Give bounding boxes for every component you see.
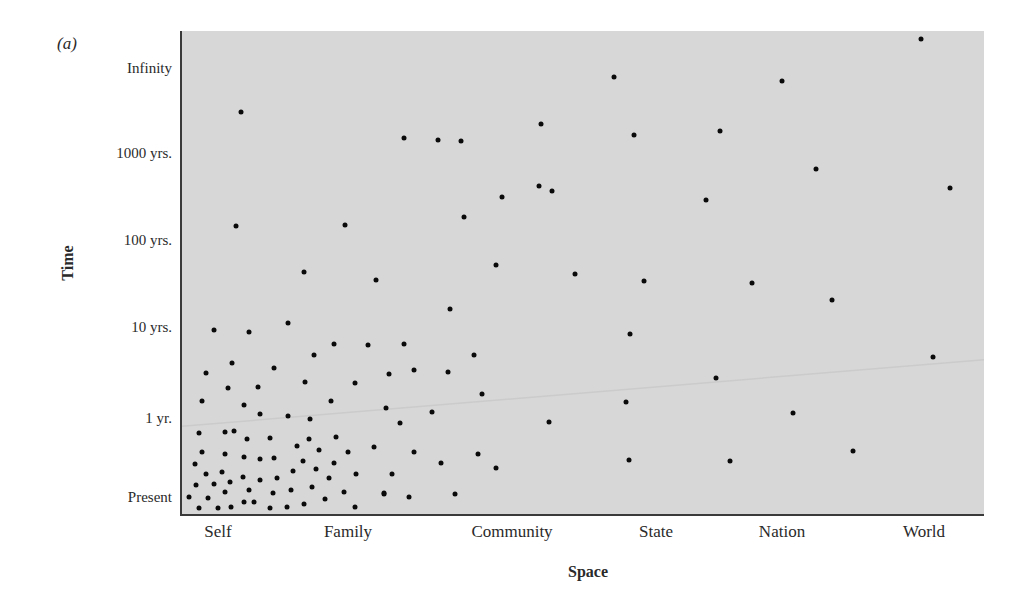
data-point — [252, 499, 257, 504]
y-tick-label: Infinity — [127, 60, 172, 77]
y-tick-label: 10 yrs. — [131, 319, 172, 336]
data-point — [365, 343, 370, 348]
data-point — [537, 184, 542, 189]
data-point — [322, 497, 327, 502]
data-point — [447, 306, 452, 311]
data-point — [642, 278, 647, 283]
data-point — [382, 491, 387, 496]
data-point — [200, 398, 205, 403]
data-point — [219, 469, 224, 474]
data-point — [204, 472, 209, 477]
y-tick-label: 1 yr. — [145, 410, 172, 427]
data-point — [352, 381, 357, 386]
data-point — [231, 428, 236, 433]
data-point — [411, 367, 416, 372]
data-point — [718, 128, 723, 133]
data-point — [538, 122, 543, 127]
data-point — [242, 403, 247, 408]
data-point — [242, 499, 247, 504]
data-point — [387, 372, 392, 377]
data-point — [480, 392, 485, 397]
data-point — [317, 448, 322, 453]
y-tick-label: Present — [128, 489, 172, 506]
data-point — [244, 437, 249, 442]
data-point — [342, 490, 347, 495]
data-point — [780, 78, 785, 83]
data-point — [288, 487, 293, 492]
data-point — [550, 189, 555, 194]
data-point — [312, 353, 317, 358]
data-point — [398, 420, 403, 425]
x-tick-label: Self — [204, 522, 231, 542]
data-point — [947, 185, 952, 190]
data-point — [301, 270, 306, 275]
data-point — [343, 223, 348, 228]
data-point — [851, 449, 856, 454]
data-point — [212, 482, 217, 487]
data-point — [411, 449, 416, 454]
data-point — [257, 477, 262, 482]
data-point — [200, 449, 205, 454]
data-point — [462, 215, 467, 220]
data-point — [301, 502, 306, 507]
data-point — [728, 458, 733, 463]
data-point — [239, 110, 244, 115]
data-point — [612, 75, 617, 80]
data-point — [406, 495, 411, 500]
data-point — [493, 263, 498, 268]
data-point — [268, 435, 273, 440]
plot-area — [180, 31, 984, 516]
x-tick-label: World — [903, 522, 945, 542]
data-point — [814, 166, 819, 171]
data-point — [295, 443, 300, 448]
data-point — [222, 430, 227, 435]
data-point — [234, 224, 239, 229]
data-point — [268, 506, 273, 511]
data-point — [313, 467, 318, 472]
data-point — [383, 405, 388, 410]
data-point — [436, 138, 441, 143]
data-point — [623, 399, 628, 404]
data-point — [222, 490, 227, 495]
data-point — [257, 457, 262, 462]
data-point — [242, 454, 247, 459]
data-point — [475, 452, 480, 457]
panel-label: (a) — [57, 34, 77, 54]
y-tick-label: 1000 yrs. — [116, 145, 172, 162]
data-point — [309, 484, 314, 489]
y-tick-label: 100 yrs. — [124, 232, 172, 249]
data-point — [493, 465, 498, 470]
x-tick-label: State — [639, 522, 673, 542]
data-point — [212, 327, 217, 332]
data-point — [346, 449, 351, 454]
data-point — [373, 278, 378, 283]
data-point — [222, 452, 227, 457]
data-point — [256, 385, 261, 390]
data-point — [193, 483, 198, 488]
data-point — [192, 461, 197, 466]
data-point — [247, 487, 252, 492]
data-point — [919, 37, 924, 42]
data-point — [401, 342, 406, 347]
data-point — [500, 195, 505, 200]
data-point — [354, 472, 359, 477]
data-point — [300, 458, 305, 463]
data-point — [372, 445, 377, 450]
data-point — [329, 398, 334, 403]
data-point — [226, 385, 231, 390]
data-point — [632, 133, 637, 138]
data-point — [452, 491, 457, 496]
data-point — [446, 369, 451, 374]
data-point — [704, 197, 709, 202]
data-point — [227, 479, 232, 484]
data-point — [216, 506, 221, 511]
data-point — [286, 320, 291, 325]
data-point — [240, 475, 245, 480]
data-point — [270, 491, 275, 496]
data-point — [286, 414, 291, 419]
data-point — [257, 412, 262, 417]
data-point — [829, 298, 834, 303]
data-point — [271, 365, 276, 370]
data-point — [547, 419, 552, 424]
data-point — [229, 505, 234, 510]
